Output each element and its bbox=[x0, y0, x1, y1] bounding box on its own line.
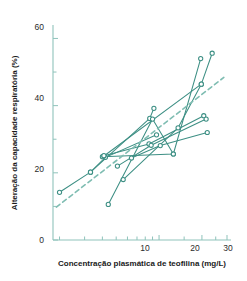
x-tick-labels: 10 20 30 bbox=[140, 243, 233, 253]
data-point-marker bbox=[199, 82, 203, 86]
data-point-marker bbox=[115, 164, 119, 168]
y-tick-labels: 0 20 40 60 bbox=[35, 22, 45, 245]
axis-lines bbox=[53, 25, 231, 240]
y-axis-title: Alteração da capacidade respiratória (%) bbox=[10, 55, 19, 210]
series-line-subject-2 bbox=[90, 135, 156, 172]
data-series-layer bbox=[60, 53, 213, 204]
data-point-marker bbox=[106, 202, 110, 206]
data-point-marker bbox=[152, 106, 156, 110]
series-line-subject-9 bbox=[108, 119, 173, 204]
series-line-subject-4 bbox=[104, 53, 212, 156]
data-point-marker bbox=[129, 156, 133, 160]
data-point-marker bbox=[204, 117, 208, 121]
x-tick-label-10: 10 bbox=[140, 243, 150, 253]
data-point-marker bbox=[88, 170, 92, 174]
data-point-marker bbox=[57, 190, 61, 194]
data-markers-layer bbox=[57, 51, 214, 206]
data-point-marker bbox=[171, 152, 175, 156]
y-tick-label-20: 20 bbox=[35, 164, 45, 174]
x-tick-label-20: 20 bbox=[190, 243, 200, 253]
data-point-marker bbox=[210, 51, 214, 55]
y-tick-label-60: 60 bbox=[35, 22, 45, 32]
data-point-marker bbox=[158, 144, 162, 148]
data-point-marker bbox=[102, 154, 106, 158]
data-point-marker bbox=[154, 133, 158, 137]
data-point-marker bbox=[176, 126, 180, 130]
x-axis-title: Concentração plasmática de teofilina (mg… bbox=[58, 259, 226, 268]
x-axis-ticks bbox=[60, 235, 227, 240]
data-point-marker bbox=[205, 130, 209, 134]
chart-figure: 10 20 30 0 20 40 60 Concentração plasmát… bbox=[0, 0, 247, 281]
y-axis-ticks bbox=[53, 38, 58, 240]
y-tick-label-40: 40 bbox=[35, 93, 45, 103]
trend-line-layer bbox=[56, 77, 224, 207]
y-tick-label-0: 0 bbox=[39, 235, 44, 245]
trend-line bbox=[56, 77, 224, 207]
spaghetti-plot: 10 20 30 0 20 40 60 Concentração plasmát… bbox=[0, 0, 247, 281]
data-point-marker bbox=[121, 177, 125, 181]
x-tick-label-30: 30 bbox=[223, 243, 233, 253]
data-point-marker bbox=[199, 56, 203, 60]
data-point-marker bbox=[150, 117, 154, 121]
data-point-marker bbox=[149, 143, 153, 147]
series-line-subject-1 bbox=[60, 108, 154, 192]
